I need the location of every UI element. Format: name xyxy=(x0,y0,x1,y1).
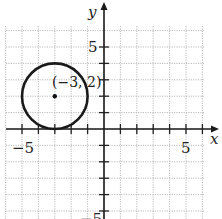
center-point xyxy=(53,94,57,98)
y-tick-label-neg5: −5 xyxy=(80,210,102,219)
y-tick-label-pos5: 5 xyxy=(88,38,98,56)
x-tick-label-neg5: −5 xyxy=(12,139,34,157)
x-axis-label: x xyxy=(210,130,219,148)
axes xyxy=(6,2,219,219)
center-point-label: (−3, 2) xyxy=(52,74,101,90)
y-axis-label: y xyxy=(87,3,97,21)
coordinate-plane: (−3, 2) y x −5 5 5 −5 xyxy=(0,0,222,219)
x-tick-label-pos5: 5 xyxy=(181,139,191,157)
